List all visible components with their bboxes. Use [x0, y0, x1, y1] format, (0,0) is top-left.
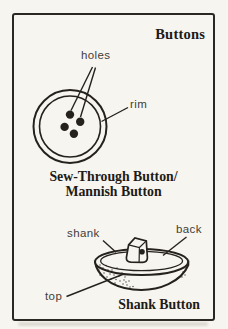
- button-diagrams-drawing: [0, 0, 228, 329]
- label-shank: shank: [67, 227, 100, 239]
- page-title: Buttons: [155, 26, 205, 43]
- button-rim-circle: [40, 96, 101, 157]
- sew-through-caption: Sew-Through Button/ Mannish Button: [12, 170, 215, 199]
- sew-through-button-drawing: [34, 67, 129, 163]
- shank-leader-line: [103, 241, 116, 253]
- sew-through-caption-line1: Sew-Through Button/: [12, 170, 215, 185]
- scanned-page: Buttons holes rim Sew-Through Button/ Ma…: [0, 0, 228, 329]
- button-outer-circle: [34, 90, 107, 163]
- label-holes: holes: [81, 49, 111, 61]
- shank-caption: Shank Button: [118, 297, 200, 313]
- shank-hole-dot: [139, 249, 145, 255]
- top-leader-line: [67, 275, 123, 297]
- label-back: back: [176, 223, 202, 235]
- sew-through-caption-line2: Mannish Button: [12, 185, 215, 200]
- scan-smudge-artifact: [18, 322, 208, 326]
- shank-post: [126, 238, 147, 262]
- shank-button-drawing: [67, 237, 189, 297]
- label-top: top: [45, 290, 62, 302]
- label-rim: rim: [130, 98, 147, 110]
